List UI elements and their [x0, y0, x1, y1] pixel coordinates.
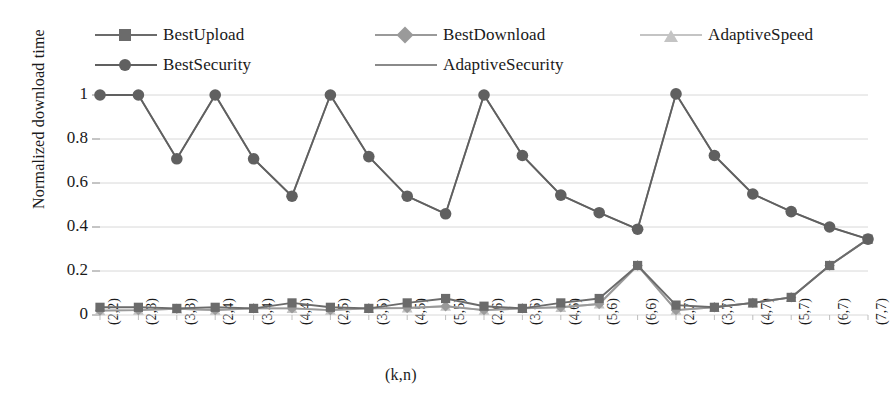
data-point	[403, 298, 412, 307]
data-point	[518, 304, 527, 313]
data-point	[595, 294, 604, 303]
data-point	[249, 304, 258, 313]
data-point	[555, 189, 567, 201]
data-point	[94, 89, 106, 101]
data-point	[364, 304, 373, 313]
data-point	[709, 150, 721, 162]
data-point	[824, 221, 836, 233]
data-point	[478, 89, 490, 101]
series-bestupload	[95, 235, 872, 314]
data-point	[287, 298, 296, 307]
data-point	[556, 298, 565, 307]
data-point	[747, 188, 759, 200]
data-point	[209, 89, 221, 101]
data-point	[248, 153, 260, 165]
data-point	[326, 303, 335, 312]
data-point	[785, 206, 797, 218]
data-point	[748, 298, 757, 307]
data-point	[325, 89, 337, 101]
data-point	[633, 261, 642, 270]
data-point	[671, 301, 680, 310]
data-point	[363, 151, 375, 163]
data-point	[787, 293, 796, 302]
data-point	[172, 304, 181, 313]
data-point	[825, 261, 834, 270]
data-point	[862, 233, 874, 245]
gridlines	[100, 95, 868, 315]
x-tick-label: (7,7)	[874, 298, 890, 325]
series-bestsecurity	[94, 88, 874, 245]
data-point	[479, 302, 488, 311]
data-point	[593, 207, 605, 219]
data-point	[134, 303, 143, 312]
data-point	[286, 190, 298, 202]
data-point	[440, 208, 452, 220]
data-point	[211, 303, 220, 312]
data-point	[441, 294, 450, 303]
data-point	[171, 153, 183, 165]
data-point	[632, 223, 644, 235]
data-point	[401, 190, 413, 202]
series-adaptivesecurity	[100, 94, 868, 239]
axis-ticks	[92, 95, 868, 320]
data-point	[517, 150, 529, 162]
data-point	[670, 88, 682, 100]
data-point	[133, 89, 145, 101]
data-point	[710, 303, 719, 312]
data-point	[95, 303, 104, 312]
